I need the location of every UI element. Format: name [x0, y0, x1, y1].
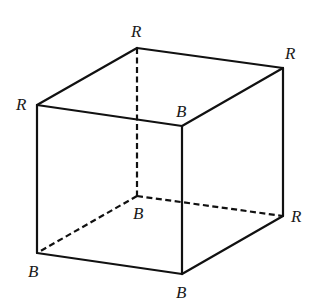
- hidden-edge-bottom_back_left-bottom_back_right: [137, 196, 283, 216]
- hidden-edges: [37, 48, 283, 253]
- edge-top_front_right-top_front_left: [37, 105, 182, 126]
- edge-top_back_left-top_back_right: [137, 48, 283, 68]
- edge-bottom_front_left-bottom_front_right: [37, 253, 182, 274]
- vertex-label-bottom_front_right: B: [176, 283, 187, 302]
- vertex-label-top_back_right: R: [284, 44, 296, 63]
- vertex-label-bottom_front_left: B: [28, 262, 39, 281]
- vertex-label-bottom_back_right: R: [290, 207, 302, 226]
- vertex-label-top_front_left: R: [15, 95, 27, 114]
- vertex-label-top_front_right: B: [176, 102, 187, 121]
- cube-diagram: RRRBBRBB: [0, 0, 315, 308]
- edge-top_front_left-top_back_left: [37, 48, 137, 105]
- vertex-label-bottom_back_left: B: [133, 204, 144, 223]
- hidden-edge-bottom_back_left-bottom_front_left: [37, 196, 137, 253]
- vertex-label-top_back_left: R: [130, 22, 142, 41]
- visible-edges: [37, 48, 283, 274]
- edge-bottom_front_right-bottom_back_right: [182, 216, 283, 274]
- edge-top_back_right-top_front_right: [182, 68, 283, 126]
